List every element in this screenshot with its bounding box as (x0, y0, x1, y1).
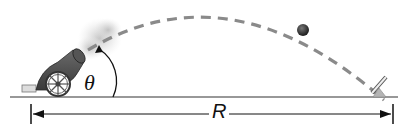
cannonball (297, 24, 309, 36)
cannon (22, 47, 88, 96)
target-stand (372, 77, 386, 97)
trajectory-path (88, 17, 384, 100)
range-label: R (209, 101, 229, 121)
diagram-canvas (0, 0, 398, 137)
cannon-wheel-icon (46, 72, 70, 96)
angle-label: θ (84, 70, 95, 96)
projectile-diagram: θ R (0, 0, 398, 137)
